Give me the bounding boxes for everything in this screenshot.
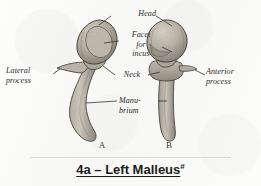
leader-neck-a [103, 66, 115, 75]
leader-manubrium-a [86, 101, 117, 103]
figure-caption: 4a – Left Malleus# [0, 162, 261, 177]
leader-lateral-process [53, 69, 60, 74]
specimen-a-letter: A [95, 140, 109, 150]
specimen-b-letter: B [162, 140, 176, 150]
figure-caption-footnote-mark: # [180, 162, 184, 171]
caption-divider [30, 157, 231, 158]
anatomical-plate: Head Facet for incus Lateral process Nec… [0, 0, 261, 186]
label-head: Head [112, 9, 156, 19]
figure-caption-text: 4a – Left Malleus [76, 162, 180, 177]
label-manubrium: Manu- brium [119, 96, 159, 115]
label-anterior-process: Anterior process [206, 67, 256, 86]
leader-anterior-process [195, 70, 205, 75]
specimen-a-malleus [57, 20, 117, 141]
figure-illustration-area: Head Facet for incus Lateral process Nec… [0, 0, 261, 156]
label-lateral-process: Lateral process [6, 66, 54, 85]
label-facet-for-incus: Facet for incus [120, 30, 162, 59]
label-neck: Neck [117, 70, 147, 80]
